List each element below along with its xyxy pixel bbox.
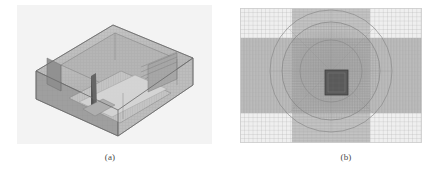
isometric-domain-drawing bbox=[17, 5, 212, 144]
figure-container: (a) (b) bbox=[0, 0, 422, 174]
caption-panel-a: (a) bbox=[94, 152, 126, 162]
plan-mesh-drawing bbox=[240, 8, 422, 143]
panel-b-image bbox=[240, 8, 422, 143]
central-obstacle-square bbox=[325, 70, 348, 95]
panel-a-image bbox=[17, 5, 212, 144]
caption-panel-b: (b) bbox=[330, 152, 362, 162]
